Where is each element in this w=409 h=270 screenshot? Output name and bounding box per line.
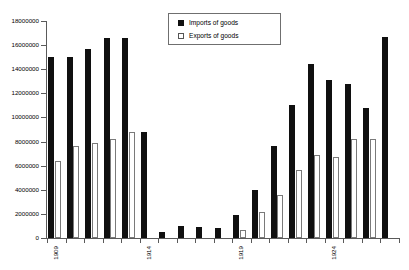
bar-imports bbox=[345, 84, 351, 238]
bar-exports bbox=[277, 195, 283, 238]
bar-exports bbox=[296, 170, 302, 238]
chart-legend: Imports of goods Exports of goods bbox=[168, 13, 281, 45]
bar-imports bbox=[122, 38, 128, 238]
bar-chart: 0200000040000006000000800000010000000120… bbox=[0, 0, 409, 270]
bar-exports bbox=[55, 161, 61, 238]
x-axis-tick bbox=[66, 239, 67, 243]
x-axis-tick bbox=[214, 239, 215, 243]
x-axis-tick bbox=[232, 239, 233, 243]
y-axis-tick-label: 18000000 bbox=[11, 18, 39, 24]
bar-imports bbox=[252, 190, 258, 238]
plot-area bbox=[47, 21, 399, 238]
x-axis-tick-label: 1919 bbox=[238, 246, 244, 260]
x-axis-tick bbox=[251, 239, 252, 243]
bar-exports bbox=[370, 139, 376, 238]
x-axis-tick bbox=[399, 239, 400, 243]
y-axis-tick-label: 12000000 bbox=[11, 90, 39, 96]
bar-exports bbox=[333, 157, 339, 238]
bar-imports bbox=[289, 105, 295, 238]
x-axis-tick bbox=[288, 239, 289, 243]
y-axis-tick-label: 10000000 bbox=[11, 114, 39, 120]
bar-exports bbox=[259, 212, 265, 238]
legend-item-label: Exports of goods bbox=[189, 32, 238, 39]
y-axis-tick-label: 6000000 bbox=[15, 163, 39, 169]
bar-imports bbox=[326, 80, 332, 238]
bar-imports bbox=[308, 64, 314, 238]
y-axis-tick-label: 2000000 bbox=[15, 211, 39, 217]
bar-imports bbox=[67, 57, 73, 238]
x-axis-tick bbox=[195, 239, 196, 243]
bar-imports bbox=[141, 132, 147, 238]
hollow-square-icon bbox=[178, 33, 184, 39]
x-axis-tick bbox=[177, 239, 178, 243]
x-axis-line bbox=[46, 238, 400, 239]
y-axis-tick-label: 14000000 bbox=[11, 66, 39, 72]
bar-exports bbox=[110, 139, 116, 238]
x-axis-tick bbox=[269, 239, 270, 243]
bar-imports bbox=[382, 37, 388, 238]
bar-imports bbox=[215, 228, 221, 238]
bar-exports bbox=[73, 146, 79, 238]
x-axis-tick bbox=[325, 239, 326, 243]
bar-imports bbox=[233, 215, 239, 238]
y-axis-tick-label: 0 bbox=[36, 235, 39, 241]
x-axis-tick-label: 1909 bbox=[53, 246, 59, 260]
x-axis-tick-label: 1924 bbox=[331, 246, 337, 260]
x-axis-tick bbox=[380, 239, 381, 243]
bar-imports bbox=[159, 232, 165, 238]
filled-square-icon bbox=[178, 20, 184, 26]
x-axis-tick bbox=[362, 239, 363, 243]
bar-imports bbox=[178, 226, 184, 238]
bar-imports bbox=[196, 227, 202, 238]
x-axis-tick-label: 1914 bbox=[146, 246, 152, 260]
bar-imports bbox=[271, 146, 277, 238]
x-axis-tick bbox=[140, 239, 141, 243]
legend-item-imports: Imports of goods bbox=[178, 19, 238, 26]
bar-imports bbox=[85, 49, 91, 238]
bar-exports bbox=[240, 230, 246, 238]
bar-exports bbox=[351, 139, 357, 238]
legend-item-exports: Exports of goods bbox=[178, 32, 238, 39]
bar-imports bbox=[104, 38, 110, 238]
y-axis-tick-labels: 0200000040000006000000800000010000000120… bbox=[0, 0, 39, 270]
bar-exports bbox=[129, 132, 135, 238]
bar-imports bbox=[48, 57, 54, 238]
y-axis-tick-label: 4000000 bbox=[15, 187, 39, 193]
x-axis-tick bbox=[343, 239, 344, 243]
legend-item-label: Imports of goods bbox=[189, 19, 238, 26]
x-axis-tick bbox=[158, 239, 159, 243]
y-axis-tick-label: 16000000 bbox=[11, 42, 39, 48]
bar-imports bbox=[363, 108, 369, 238]
x-axis-tick bbox=[84, 239, 85, 243]
bar-exports bbox=[314, 155, 320, 238]
x-axis-tick bbox=[103, 239, 104, 243]
y-axis-tick-label: 8000000 bbox=[15, 139, 39, 145]
bar-exports bbox=[92, 143, 98, 238]
x-axis-tick bbox=[121, 239, 122, 243]
x-axis-tick bbox=[306, 239, 307, 243]
x-axis-tick bbox=[47, 239, 48, 243]
